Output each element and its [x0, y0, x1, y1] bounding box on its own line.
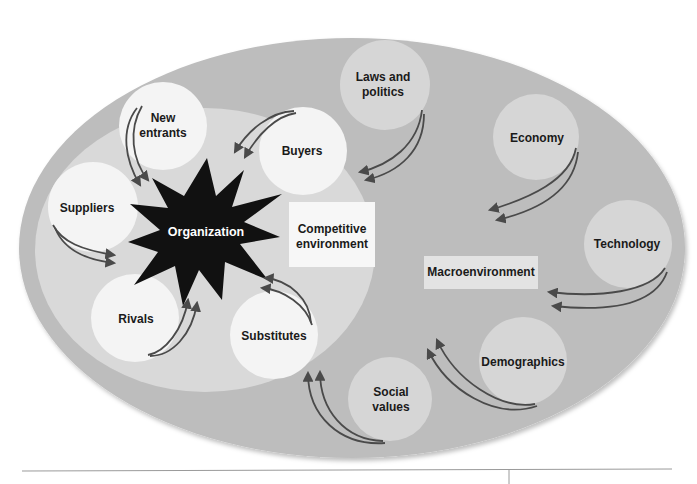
force-label: Rivals	[118, 312, 154, 326]
svg-text:environment: environment	[296, 237, 368, 251]
force-label: Technology	[594, 237, 661, 251]
force-label: Substitutes	[241, 329, 307, 343]
force-label: Laws and	[356, 70, 411, 84]
svg-text:Competitive: Competitive	[298, 222, 367, 236]
force-label: politics	[362, 85, 404, 99]
force-rivals: Rivals	[91, 274, 179, 362]
force-social-values: Social values	[348, 357, 432, 441]
force-label: Demographics	[481, 355, 565, 369]
competitive-environment-label: Competitive environment	[289, 202, 375, 267]
bottom-divider	[22, 469, 672, 471]
organization-label: Organization	[168, 225, 244, 239]
force-demographics: Demographics	[479, 317, 567, 405]
force-laws-and-politics: Laws and politics	[340, 40, 430, 130]
force-label: Suppliers	[60, 201, 115, 215]
force-new-entrants: New entrants	[119, 82, 207, 170]
force-label: Economy	[510, 131, 564, 145]
force-buyers: Buyers	[259, 107, 347, 195]
force-label: New	[151, 111, 176, 125]
force-substitutes: Substitutes	[230, 291, 318, 379]
force-economy: Economy	[493, 94, 579, 180]
force-label: Social	[373, 385, 408, 399]
force-label: values	[372, 400, 410, 414]
macroenvironment-label: Macroenvironment	[424, 256, 538, 289]
force-label: Buyers	[282, 144, 323, 158]
environment-diagram: New entrants Buyers Suppliers Rivals Sub…	[0, 0, 697, 484]
svg-text:Macroenvironment: Macroenvironment	[427, 265, 534, 279]
force-label: entrants	[139, 126, 187, 140]
